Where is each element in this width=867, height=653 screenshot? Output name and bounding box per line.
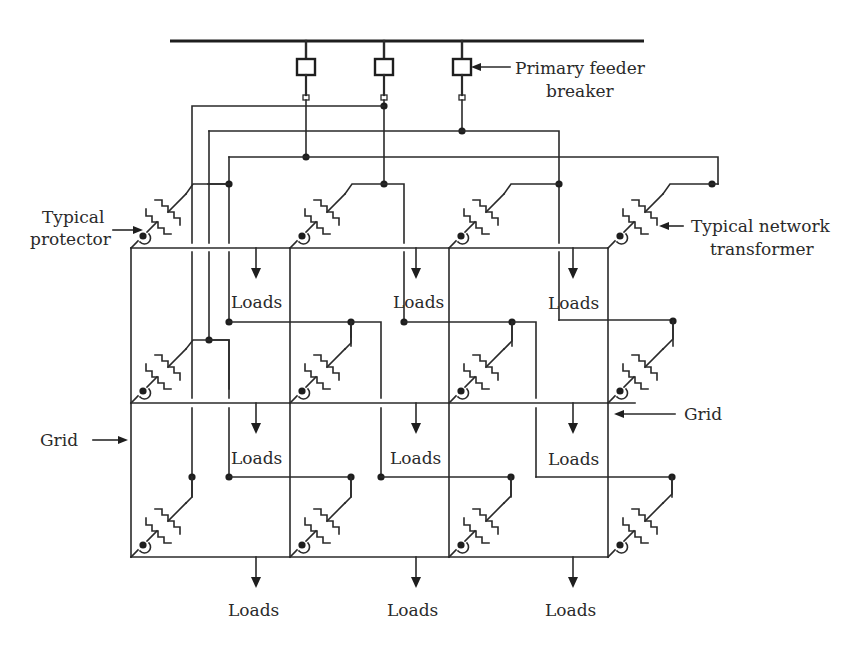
labels: Primary feeder breaker Typical protector… (30, 58, 831, 620)
annotation-arrows (93, 63, 683, 444)
feeder-breaker-3 (453, 41, 471, 135)
network-transformer (449, 477, 511, 557)
network-diagram: Primary feeder breaker Typical protector… (0, 0, 867, 653)
loads-label: Loads (231, 448, 282, 468)
loads-label: Loads (387, 600, 438, 620)
feeder-breaker-2 (375, 41, 393, 188)
load-arrow-icon (251, 403, 261, 434)
load-arrow-icon (411, 403, 421, 434)
load-arrow-icon (251, 557, 261, 588)
network-transformer (131, 477, 192, 557)
load-arrow-icon (568, 248, 578, 279)
grid-right-label: Grid (684, 404, 722, 424)
loads-label: Loads (228, 600, 279, 620)
loads-label: Loads (231, 292, 282, 312)
typical-network-transformer-label: Typical network (691, 216, 831, 236)
network-transformer (131, 340, 229, 403)
load-arrow-icon (568, 557, 578, 588)
network-transformer (131, 184, 229, 248)
grid-left-label: Grid (40, 430, 78, 450)
network-transformers (131, 184, 712, 557)
loads-label: Loads (390, 448, 441, 468)
network-transformer (290, 477, 351, 557)
load-arrow-icon (411, 248, 421, 279)
network-transformer (608, 321, 673, 403)
network-transformer (290, 322, 351, 403)
typical-protector-label: Typical (42, 207, 104, 227)
loads-label: Loads (548, 449, 599, 469)
loads-label: Loads (545, 600, 596, 620)
network-transformer (449, 322, 512, 403)
load-arrow-icon (411, 557, 421, 588)
load-arrow-icon (251, 248, 261, 279)
network-transformer (449, 184, 559, 248)
load-arrow-icon (568, 403, 578, 434)
network-transformer (290, 184, 384, 248)
typical-protector-label-2: protector (30, 229, 112, 249)
primary-feeder-breaker-label: Primary feeder (515, 58, 646, 78)
loads-label: Loads (548, 293, 599, 313)
primary-feeder-breaker-label-2: breaker (546, 81, 615, 101)
feeder-breaker-1 (297, 41, 315, 161)
typical-network-transformer-label-2: transformer (710, 239, 815, 259)
loads-label: Loads (393, 292, 444, 312)
network-transformer (608, 477, 672, 557)
